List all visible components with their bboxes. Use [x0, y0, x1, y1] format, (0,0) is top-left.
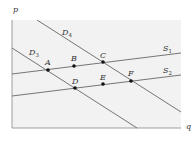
point-label-b: B	[70, 54, 77, 63]
point-a	[46, 68, 50, 72]
point-d	[73, 86, 77, 90]
point-label-f: F	[127, 69, 134, 78]
point-e	[101, 82, 105, 86]
supply-demand-diagram: p q D4D3S1S2 ABCDEF	[0, 0, 193, 142]
point-label-c: C	[100, 51, 106, 60]
point-c	[101, 60, 105, 64]
x-axis-label: q	[186, 122, 191, 131]
point-label-d: D	[71, 77, 79, 86]
point-label-a: A	[44, 58, 51, 67]
y-axis-label: p	[13, 5, 18, 14]
point-b	[72, 64, 76, 68]
point-label-e: E	[99, 73, 106, 82]
point-f	[129, 79, 133, 83]
plot-area	[12, 20, 181, 128]
